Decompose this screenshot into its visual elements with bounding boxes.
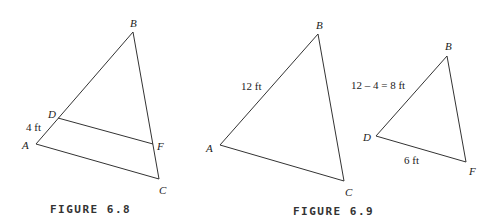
caption-figure-6-9: FIGURE 6.9: [293, 205, 374, 218]
figure-6-9: B A C 12 ft B D F 12 – 4 = 8 ft 6 ft FIG…: [205, 19, 476, 218]
measurement-db: 12 – 4 = 8 ft: [351, 79, 405, 91]
triangle-dbf-small: [376, 56, 466, 162]
measurement-df: 6 ft: [404, 154, 419, 166]
vertex-label-d: D: [47, 108, 56, 120]
caption-figure-6-8: FIGURE 6.8: [50, 203, 131, 216]
vertex-label-b-small: B: [445, 40, 452, 52]
vertex-label-a: A: [21, 139, 29, 151]
figure-6-8: B D A F C 4 ft FIGURE 6.8: [21, 17, 167, 216]
measurement-ad: 4 ft: [26, 121, 41, 133]
measurement-ab: 12 ft: [241, 80, 261, 92]
vertex-label-c-large: C: [345, 186, 353, 198]
vertex-label-d-small: D: [362, 131, 371, 143]
figures-canvas: B D A F C 4 ft FIGURE 6.8 B A C 12 ft B …: [0, 0, 500, 222]
vertex-label-c: C: [159, 184, 167, 196]
vertex-label-a-large: A: [205, 142, 213, 154]
triangle-abc: [36, 32, 159, 179]
segment-df: [58, 118, 153, 144]
vertex-label-f: F: [156, 140, 164, 152]
vertex-label-f-small: F: [468, 165, 476, 177]
triangle-abc-large: [220, 34, 344, 181]
vertex-label-b: B: [130, 17, 137, 29]
vertex-label-b-large: B: [316, 19, 323, 31]
